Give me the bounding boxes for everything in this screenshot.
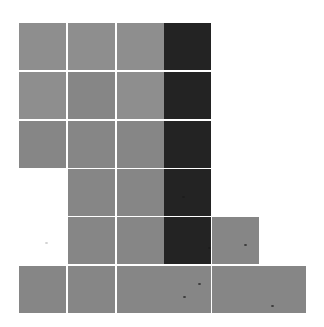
tile-r5-c4 xyxy=(164,217,211,264)
scan-speck xyxy=(182,196,185,198)
tile-r6-c4 xyxy=(164,266,211,313)
tile-r5-c3 xyxy=(117,217,164,264)
tile-r4-c2 xyxy=(68,169,115,216)
tile-r6-c2 xyxy=(68,266,115,313)
scan-speck xyxy=(45,242,48,244)
tile-r6-c3 xyxy=(117,266,164,313)
tile-r3-c1 xyxy=(19,121,66,168)
tile-r6-c6 xyxy=(259,266,306,313)
scan-speck xyxy=(208,247,211,249)
tile-r2-c3 xyxy=(117,72,164,119)
tile-r5-c5 xyxy=(212,217,259,264)
tile-r1-c2 xyxy=(68,23,115,70)
scan-speck xyxy=(271,305,274,307)
tile-r4-c3 xyxy=(117,169,164,216)
tile-r2-c1 xyxy=(19,72,66,119)
tile-r2-c4 xyxy=(164,72,211,119)
tile-r2-c2 xyxy=(68,72,115,119)
tile-r6-c1 xyxy=(19,266,66,313)
tile-r3-c3 xyxy=(117,121,164,168)
scan-speck xyxy=(183,296,186,298)
scan-speck xyxy=(198,283,201,285)
tile-r1-c4 xyxy=(164,23,211,70)
tile-grid xyxy=(0,0,324,327)
tile-r3-c2 xyxy=(68,121,115,168)
tile-r1-c3 xyxy=(117,23,164,70)
tile-r1-c1 xyxy=(19,23,66,70)
tile-r3-c4 xyxy=(164,121,211,168)
tile-r4-c4 xyxy=(164,169,211,216)
tile-r6-c5 xyxy=(212,266,259,313)
tile-r5-c2 xyxy=(68,217,115,264)
scan-speck xyxy=(244,244,247,246)
